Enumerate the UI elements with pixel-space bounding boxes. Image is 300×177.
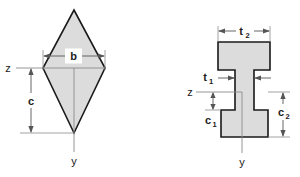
ibeam-label-c2: c [278, 106, 284, 118]
kite-label-c: c [28, 95, 34, 107]
ibeam-label-y: y [239, 156, 245, 168]
ibeam-label-t2-subscript: 2 [245, 31, 249, 40]
ibeam-label-t2: t [239, 25, 243, 37]
ibeam-label-t1-subscript: 1 [209, 77, 213, 86]
figure-background [0, 0, 300, 177]
ibeam-label-c1-subscript: 1 [212, 120, 216, 129]
figure-container: b z c y [0, 0, 300, 177]
kite-label-z: z [5, 62, 11, 74]
kite-label-y: y [71, 155, 77, 167]
ibeam-label-c2-subscript: 2 [285, 112, 289, 121]
kite-label-b: b [70, 50, 77, 62]
ibeam-label-t1: t [203, 71, 207, 83]
ibeam-label-c1: c [205, 114, 211, 126]
ibeam-label-z: z [187, 86, 193, 98]
technical-drawing-svg: b z c y [0, 0, 300, 177]
